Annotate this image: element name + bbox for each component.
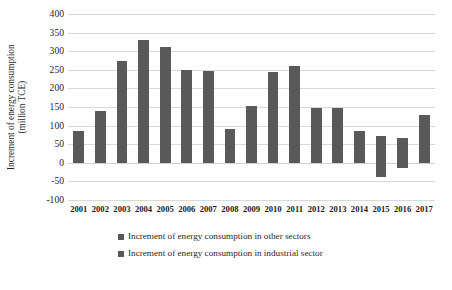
- legend-item-label: Increment of energy consumption in other…: [128, 231, 311, 242]
- bar-group: [181, 14, 192, 200]
- y-tick-label-0: 0: [30, 158, 64, 168]
- x-tick-label-2016: 2016: [392, 203, 414, 216]
- bar-2007-series1: [203, 71, 214, 163]
- bar-group: [354, 14, 365, 200]
- bar-2016-series2: [397, 163, 408, 168]
- legend-swatch-icon: [118, 234, 124, 240]
- bar-group: [225, 14, 236, 200]
- bar-2017-series1: [419, 115, 430, 163]
- bar-group: [160, 14, 171, 200]
- bar-2003-series1: [117, 61, 128, 163]
- legend-item-2[interactable]: Increment of energy consumption in indus…: [0, 245, 452, 262]
- chart-figure: Increment of energy consumption (million…: [0, 0, 452, 290]
- x-tick-label-2012: 2012: [305, 203, 327, 216]
- bar-2009-series1: [246, 106, 257, 163]
- legend-item-1[interactable]: Increment of energy consumption in other…: [0, 228, 452, 245]
- bar-2008-series1: [225, 129, 236, 163]
- bar-2010-series1: [268, 72, 279, 162]
- bar-group: [397, 14, 408, 200]
- x-tick-label-2001: 2001: [68, 203, 90, 216]
- x-tick-label-2004: 2004: [133, 203, 155, 216]
- legend-swatch-icon: [118, 251, 124, 257]
- x-tick-label-2008: 2008: [219, 203, 241, 216]
- y-tick-label-350: 350: [30, 28, 64, 38]
- x-tick-label-2003: 2003: [111, 203, 133, 216]
- y-tick-label-250: 250: [30, 65, 64, 75]
- bar-group: [117, 14, 128, 200]
- bar-2015-series1: [376, 136, 387, 162]
- y-tick-label-50: 50: [30, 139, 64, 149]
- y-tick-label-300: 300: [30, 46, 64, 56]
- y-tick-label-200: 200: [30, 83, 64, 93]
- y-tick-label--100: -100: [30, 195, 64, 205]
- bar-2005-series1: [160, 47, 171, 162]
- bar-group: [73, 14, 84, 200]
- x-tick-label-2010: 2010: [262, 203, 284, 216]
- y-tick-label-150: 150: [30, 102, 64, 112]
- bar-group: [203, 14, 214, 200]
- bar-2015-series2: [376, 163, 387, 177]
- bar-2016-series1: [397, 138, 408, 163]
- bar-group: [332, 14, 343, 200]
- x-tick-label-2015: 2015: [370, 203, 392, 216]
- plot-area: 400350300250200150100500-50-100: [68, 14, 435, 200]
- chart-legend: Increment of energy consumption in other…: [0, 228, 452, 262]
- bar-group: [311, 14, 322, 200]
- bar-2012-series1: [311, 108, 322, 163]
- bar-group: [268, 14, 279, 200]
- y-axis-title-line2: (million TCE): [17, 45, 28, 171]
- bar-2004-series1: [138, 40, 149, 163]
- bar-2001-series1: [73, 131, 84, 163]
- bar-2006-series1: [181, 70, 192, 163]
- plot-canvas: 400350300250200150100500-50-100: [68, 14, 435, 200]
- bar-2014-series1: [354, 131, 365, 163]
- bar-group: [289, 14, 300, 200]
- y-tick-label--50: -50: [30, 176, 64, 186]
- x-tick-label-2006: 2006: [176, 203, 198, 216]
- x-tick-label-2017: 2017: [413, 203, 435, 216]
- gridline--100: [68, 200, 435, 201]
- x-tick-label-2007: 2007: [198, 203, 220, 216]
- bar-group: [138, 14, 149, 200]
- bar-2013-series1: [332, 108, 343, 162]
- bar-group: [376, 14, 387, 200]
- bar-group: [246, 14, 257, 200]
- y-tick-label-400: 400: [30, 9, 64, 19]
- x-axis-labels: 2001200220032004200520062007200820092010…: [68, 203, 435, 217]
- bar-group: [95, 14, 106, 200]
- x-tick-label-2013: 2013: [327, 203, 349, 216]
- y-tick-label-100: 100: [30, 121, 64, 131]
- bar-2011-series1: [289, 66, 300, 163]
- y-axis-title-line1: Increment of energy consumption: [6, 45, 17, 171]
- x-tick-label-2005: 2005: [154, 203, 176, 216]
- bar-2002-series1: [95, 111, 106, 163]
- x-tick-label-2014: 2014: [349, 203, 371, 216]
- bar-group: [419, 14, 430, 200]
- y-axis-title: Increment of energy consumption (million…: [0, 0, 34, 215]
- x-tick-label-2009: 2009: [241, 203, 263, 216]
- x-tick-label-2011: 2011: [284, 203, 306, 216]
- x-tick-label-2002: 2002: [90, 203, 112, 216]
- legend-item-label: Increment of energy consumption in indus…: [128, 248, 323, 259]
